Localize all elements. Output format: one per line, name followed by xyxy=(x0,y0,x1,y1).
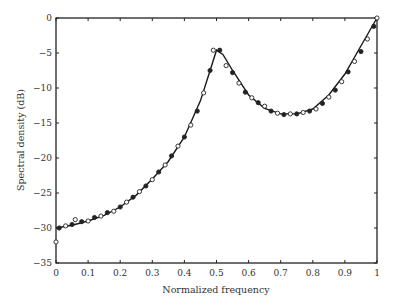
y-tick-label: −10 xyxy=(33,83,52,93)
data-marker xyxy=(99,214,103,218)
y-tick-label: −35 xyxy=(33,258,52,268)
data-marker xyxy=(224,64,228,68)
model-line xyxy=(56,18,377,228)
data-marker xyxy=(118,205,122,209)
data-marker xyxy=(211,48,215,52)
data-marker xyxy=(105,211,109,215)
y-tick-label: −25 xyxy=(33,188,52,198)
y-tick-label: −15 xyxy=(33,118,52,128)
x-tick-label: 0.4 xyxy=(177,268,192,278)
data-marker xyxy=(327,95,331,99)
data-marker xyxy=(57,226,61,230)
x-tick-label: 0.1 xyxy=(81,268,95,278)
y-axis-label: Spectral density (dB) xyxy=(15,89,26,191)
y-tick-label: −30 xyxy=(33,223,52,233)
data-marker xyxy=(340,80,344,84)
data-marker xyxy=(250,96,254,100)
data-marker xyxy=(163,163,167,167)
data-marker xyxy=(125,200,129,204)
data-marker xyxy=(182,135,186,139)
spectral-density-chart: 00.10.20.30.40.50.60.70.80.91 0−5−10−15−… xyxy=(0,0,396,307)
data-marker xyxy=(208,68,212,72)
data-marker xyxy=(307,109,311,113)
data-marker xyxy=(131,195,135,199)
data-marker xyxy=(295,112,299,116)
x-tick-label: 0.9 xyxy=(338,268,353,278)
data-marker xyxy=(230,71,234,75)
y-tick-label: −20 xyxy=(33,153,52,163)
x-tick-label: 0.2 xyxy=(113,268,127,278)
data-marker xyxy=(157,170,161,174)
data-marker xyxy=(320,101,324,105)
data-marker xyxy=(237,81,241,85)
x-tick-label: 0 xyxy=(53,268,59,278)
data-marker xyxy=(137,190,141,194)
data-marker xyxy=(70,222,74,226)
data-marker xyxy=(218,48,222,52)
y-axis-ticks xyxy=(56,18,377,263)
data-marker xyxy=(352,59,356,63)
data-marker xyxy=(314,107,318,111)
data-marker xyxy=(301,110,305,114)
data-marker xyxy=(333,88,337,92)
data-marker xyxy=(359,50,363,54)
x-tick-label: 0.3 xyxy=(145,268,160,278)
y-tick-label: 0 xyxy=(46,13,52,23)
data-marker xyxy=(54,240,58,244)
y-tick-label: −5 xyxy=(39,48,53,58)
data-marker xyxy=(256,101,260,105)
data-marker xyxy=(288,112,292,116)
data-marker xyxy=(64,224,68,228)
data-marker xyxy=(243,90,247,94)
data-marker xyxy=(346,70,350,74)
data-marker xyxy=(112,209,116,213)
data-marker xyxy=(269,109,273,113)
data-marker xyxy=(275,111,279,115)
data-marker xyxy=(150,178,154,182)
data-marker xyxy=(202,91,206,95)
data-marker xyxy=(282,113,286,117)
data-marker xyxy=(144,184,148,188)
data-marker xyxy=(189,123,193,127)
data-marker xyxy=(195,109,199,113)
x-tick-label: 0.5 xyxy=(209,268,224,278)
data-marker xyxy=(73,218,77,222)
data-marker xyxy=(176,144,180,148)
x-tick-label: 0.8 xyxy=(306,268,321,278)
data-marker xyxy=(263,104,267,108)
x-tick-label: 0.7 xyxy=(274,268,289,278)
data-marker xyxy=(365,37,369,41)
data-marker xyxy=(169,154,173,158)
data-marker xyxy=(86,219,90,223)
data-marker xyxy=(375,16,379,20)
x-axis-label: Normalized frequency xyxy=(162,284,270,295)
data-marker xyxy=(92,215,96,219)
plot-frame xyxy=(56,18,377,263)
data-marker xyxy=(80,220,84,224)
data-marker xyxy=(372,24,376,28)
x-tick-label: 1 xyxy=(374,268,380,278)
x-tick-label: 0.6 xyxy=(241,268,256,278)
x-axis-tick-labels: 00.10.20.30.40.50.60.70.80.91 xyxy=(53,268,380,278)
x-axis-ticks xyxy=(56,18,377,263)
y-axis-tick-labels: 0−5−10−15−20−25−30−35 xyxy=(33,13,52,268)
